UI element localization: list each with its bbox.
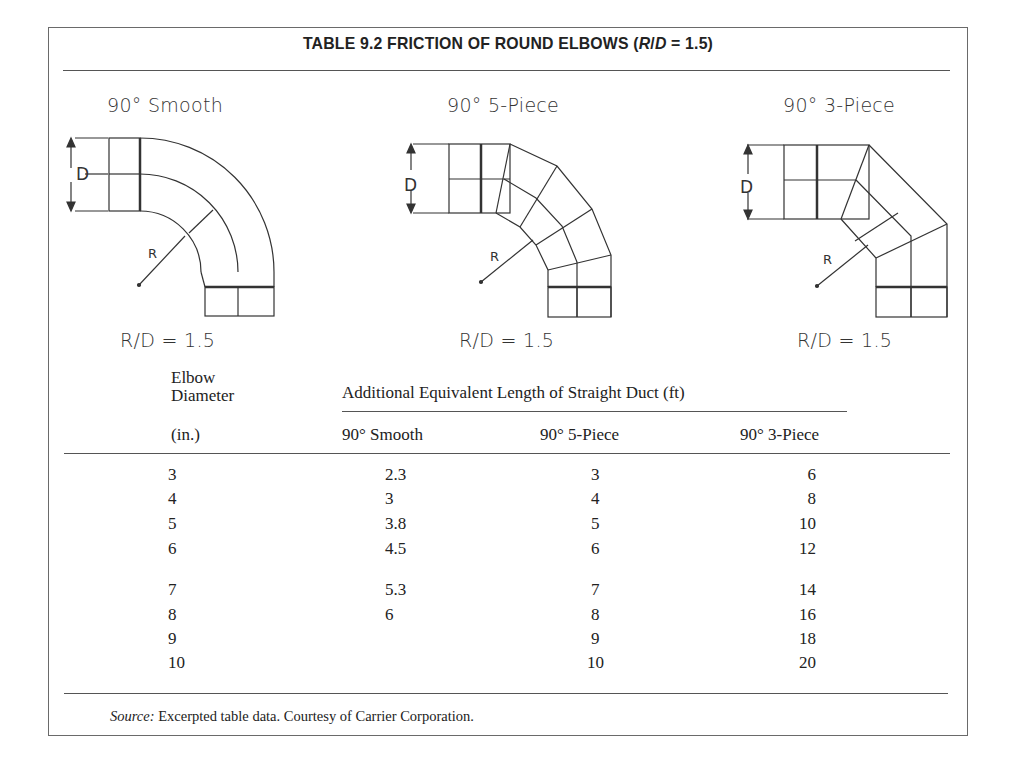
svg-text:D: D xyxy=(404,175,417,195)
svg-text:D: D xyxy=(740,177,753,197)
column-header-5-piece: 90° 5-Piece xyxy=(540,425,619,445)
cell-5-piece: 6 xyxy=(591,539,600,559)
cell-diameter: 3 xyxy=(168,465,177,485)
figure-label-5-piece: 90° 5-Piece xyxy=(447,94,559,116)
cell-3-piece: 12 xyxy=(796,539,816,559)
table-title: TABLE 9.2 FRICTION OF ROUND ELBOWS (R/D … xyxy=(80,34,936,54)
cell-3-piece: 20 xyxy=(796,653,816,673)
group-rule xyxy=(342,411,847,412)
cell-smooth: 5.3 xyxy=(385,580,406,600)
cell-3-piece: 6 xyxy=(796,465,816,485)
five-piece-elbow-diagram: D R xyxy=(400,130,630,330)
footer-rule xyxy=(64,693,948,694)
title-rule xyxy=(63,70,950,71)
cell-diameter: 4 xyxy=(168,489,177,509)
cell-diameter: 9 xyxy=(168,629,177,649)
column-header-3-piece: 90° 3-Piece xyxy=(740,425,819,445)
column-header-smooth: 90° Smooth xyxy=(342,425,423,445)
cell-5-piece: 3 xyxy=(591,465,600,485)
header-diameter-line3: (in.) xyxy=(171,425,200,445)
header-rule xyxy=(64,453,950,454)
ratio-label-5-piece: R/D = 1.5 xyxy=(459,329,554,351)
ratio-label-smooth: R/D = 1.5 xyxy=(120,329,215,351)
source-note: Source: Excerpted table data. Courtesy o… xyxy=(110,708,474,725)
cell-smooth: 3.8 xyxy=(385,514,406,534)
cell-5-piece: 10 xyxy=(587,653,604,673)
figure-label-3-piece: 90° 3-Piece xyxy=(783,94,895,116)
cell-smooth: 4.5 xyxy=(385,539,406,559)
cell-3-piece: 8 xyxy=(796,489,816,509)
cell-smooth: 6 xyxy=(385,605,394,625)
svg-text:R: R xyxy=(823,252,832,267)
cell-5-piece: 9 xyxy=(591,629,600,649)
svg-text:R: R xyxy=(490,249,499,264)
title-prefix: TABLE 9.2 FRICTION OF ROUND ELBOWS ( xyxy=(303,34,639,53)
cell-5-piece: 8 xyxy=(591,605,600,625)
title-r: R xyxy=(639,34,651,53)
ratio-label-3-piece: R/D = 1.5 xyxy=(797,329,892,351)
cell-diameter: 6 xyxy=(168,539,177,559)
radius-label-r: R xyxy=(148,246,157,261)
cell-5-piece: 4 xyxy=(591,489,600,509)
cell-diameter: 7 xyxy=(168,580,177,600)
cell-smooth: 2.3 xyxy=(385,465,406,485)
title-suffix: = 1.5) xyxy=(667,34,714,53)
title-d: D xyxy=(655,34,667,53)
source-label: Source: xyxy=(110,708,155,724)
dim-label-d: D xyxy=(76,164,89,184)
source-text: Excerpted table data. Courtesy of Carrie… xyxy=(155,708,474,724)
cell-3-piece: 18 xyxy=(796,629,816,649)
cell-3-piece: 16 xyxy=(796,605,816,625)
cell-5-piece: 7 xyxy=(591,580,600,600)
header-group-label: Additional Equivalent Length of Straight… xyxy=(342,383,685,403)
cell-3-piece: 10 xyxy=(796,514,816,534)
cell-diameter: 10 xyxy=(168,653,185,673)
cell-5-piece: 5 xyxy=(591,514,600,534)
three-piece-elbow-diagram: D R xyxy=(735,130,965,330)
smooth-elbow-diagram: D R xyxy=(60,130,320,330)
header-diameter-line1: Elbow xyxy=(171,368,215,388)
cell-diameter: 8 xyxy=(168,605,177,625)
cell-3-piece: 14 xyxy=(796,580,816,600)
cell-diameter: 5 xyxy=(168,514,177,534)
figure-label-smooth: 90° Smooth xyxy=(107,94,223,116)
cell-smooth: 3 xyxy=(385,489,394,509)
header-diameter-line2: Diameter xyxy=(171,386,234,406)
